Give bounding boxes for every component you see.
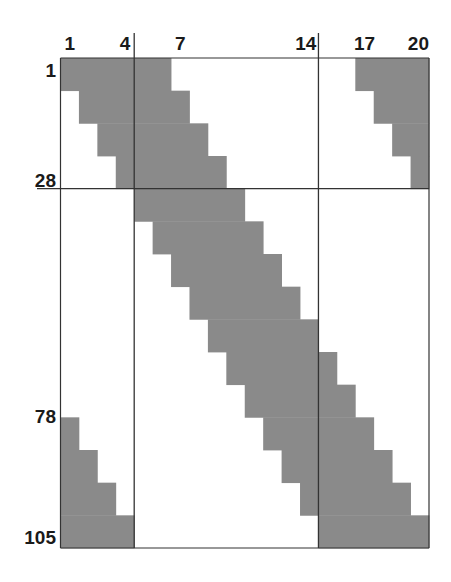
row-label: 1 [16, 61, 56, 80]
column-label: 1 [64, 34, 75, 53]
column-label: 4 [120, 34, 131, 53]
shaded-block [411, 156, 430, 189]
shaded-block [318, 515, 429, 548]
shaded-block [134, 189, 245, 222]
shaded-block [171, 254, 282, 287]
shaded-block [61, 483, 117, 516]
shaded-block [245, 385, 356, 418]
shaded-block [282, 450, 393, 483]
matrix-grid [0, 0, 451, 582]
shaded-block [61, 417, 80, 450]
shaded-block [153, 221, 264, 254]
row-label: 105 [16, 528, 56, 547]
shaded-block [226, 352, 337, 385]
shaded-block [61, 450, 98, 483]
shaded-block [374, 91, 430, 124]
row-label: 28 [16, 171, 56, 190]
shaded-block [97, 123, 208, 156]
shaded-block [208, 319, 319, 352]
matrix-diagram: 14714172012878105 [0, 0, 451, 582]
column-label: 17 [354, 34, 375, 53]
row-label: 78 [16, 407, 56, 426]
column-label: 14 [295, 34, 316, 53]
shaded-block [355, 58, 429, 91]
shaded-block [116, 156, 227, 189]
shaded-block [392, 123, 429, 156]
shaded-block [61, 58, 172, 91]
shaded-block [300, 483, 411, 516]
shaded-block [61, 515, 135, 548]
shaded-block [189, 287, 300, 320]
column-label: 7 [175, 34, 186, 53]
column-label: 20 [408, 34, 429, 53]
shaded-blocks [61, 58, 430, 548]
